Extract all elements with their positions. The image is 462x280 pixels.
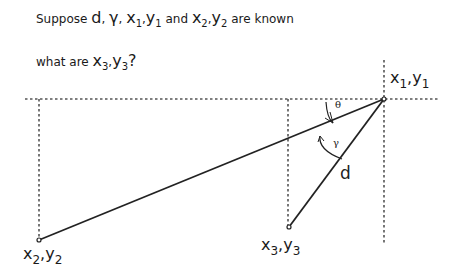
point-p2 [37,238,41,242]
subscript: 1 [422,77,430,91]
point-p3-label: x3,y3 [261,235,300,254]
geometry-diagram: θ γ d [0,0,462,280]
subscript: 2 [32,253,40,267]
point-p2-label: x2,y2 [23,244,62,263]
distance-d-label: d [340,163,351,183]
point-p3 [287,225,291,229]
text: y [45,244,54,263]
text: y [412,68,421,87]
gamma-label: γ [333,137,339,148]
subscript: 3 [270,244,278,258]
subscript: 3 [293,244,301,258]
subscript: 1 [399,77,407,91]
point-p1-label: x1,y1 [390,68,429,87]
subscript: 2 [55,253,63,267]
text: y [283,235,292,254]
point-p1 [382,97,386,101]
theta-label: θ [335,99,341,110]
